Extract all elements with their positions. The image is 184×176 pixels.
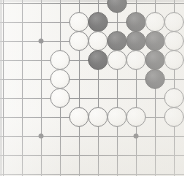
white-stone[interactable] <box>50 50 70 70</box>
white-stone[interactable] <box>88 107 108 127</box>
white-stone[interactable] <box>107 50 127 70</box>
white-stone[interactable] <box>145 12 165 32</box>
board-left-edge <box>0 0 2 176</box>
black-stone[interactable] <box>126 12 146 32</box>
black-stone[interactable] <box>145 50 165 70</box>
grid-line-horizontal-0 <box>0 3 184 4</box>
white-stone[interactable] <box>50 69 70 89</box>
grid-line-horizontal-8 <box>0 155 184 156</box>
go-board[interactable] <box>0 0 184 176</box>
grid-line-vertical-6 <box>117 0 118 176</box>
white-stone[interactable] <box>69 12 89 32</box>
board-top-edge <box>0 0 184 2</box>
white-stone[interactable] <box>164 88 184 108</box>
black-stone[interactable] <box>145 69 165 89</box>
black-stone[interactable] <box>88 12 108 32</box>
star-point-lower-right <box>134 134 139 139</box>
white-stone[interactable] <box>126 107 146 127</box>
grid-line-vertical-2 <box>41 0 42 176</box>
white-stone[interactable] <box>164 31 184 51</box>
grid-line-vertical-0 <box>3 0 4 176</box>
white-stone[interactable] <box>164 50 184 70</box>
grid-line-horizontal-5 <box>0 98 184 99</box>
grid-line-vertical-1 <box>22 0 23 176</box>
black-stone[interactable] <box>126 31 146 51</box>
white-stone[interactable] <box>164 107 184 127</box>
white-stone[interactable] <box>50 88 70 108</box>
black-stone[interactable] <box>88 50 108 70</box>
star-point-upper-left <box>39 39 44 44</box>
grid-line-horizontal-7 <box>0 136 184 137</box>
grid-line-horizontal-9 <box>0 174 184 175</box>
star-point-lower-left <box>39 134 44 139</box>
white-stone[interactable] <box>88 31 108 51</box>
white-stone[interactable] <box>126 50 146 70</box>
white-stone[interactable] <box>69 107 89 127</box>
white-stone[interactable] <box>69 31 89 51</box>
black-stone[interactable] <box>107 31 127 51</box>
white-stone[interactable] <box>107 107 127 127</box>
black-stone[interactable] <box>145 31 165 51</box>
white-stone[interactable] <box>164 12 184 32</box>
